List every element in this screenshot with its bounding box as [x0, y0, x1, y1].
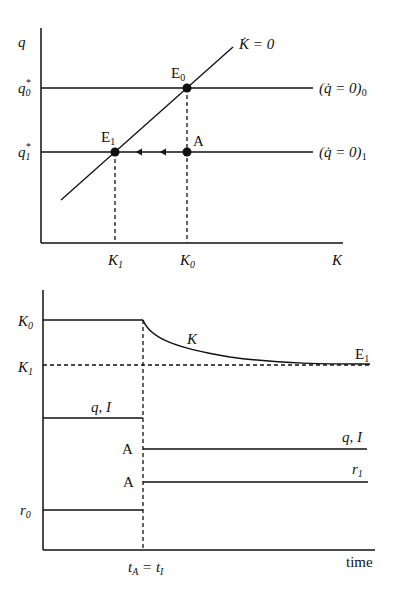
diagram-canvas: q q*0 q*1 E0 E1 A K̇ = 0 (q̇ = 0)0 (q̇ =…: [0, 0, 396, 595]
top-x-axis-label: K: [331, 252, 343, 268]
tick-k1-bottom: K1: [17, 359, 33, 377]
kdot-zero-line: [61, 47, 233, 200]
tick-q1-star: q*1: [18, 141, 31, 162]
label-qdot-zero-1: (q̇ = 0)1: [319, 144, 367, 162]
k-path-after: [143, 320, 370, 364]
tick-k0-bottom: K0: [17, 313, 33, 331]
label-e0: E0: [171, 65, 185, 83]
tick-r0: r0: [20, 502, 31, 520]
label-e1: E1: [101, 129, 115, 147]
arrow-left-icon: [160, 149, 166, 156]
label-qdot-zero-0: (q̇ = 0)0: [319, 80, 367, 98]
label-e1-bottom: E1: [355, 346, 369, 364]
label-qI-after: q, I: [342, 429, 363, 445]
label-a-lower: A: [123, 474, 134, 490]
point-e1: [111, 148, 120, 157]
point-e0: [183, 84, 192, 93]
label-a: A: [193, 133, 204, 149]
bottom-x-axis-label: time: [346, 554, 373, 570]
label-kdot-zero: K̇ = 0: [238, 36, 275, 52]
label-k-path: K: [186, 331, 198, 347]
label-qI-before: q, I: [91, 399, 112, 415]
tick-k1: K1: [107, 252, 123, 270]
top-y-axis-label: q: [18, 34, 26, 50]
label-event-time: tA = tI: [128, 559, 164, 577]
label-r1: r1: [352, 461, 363, 479]
tick-k0: K0: [179, 252, 195, 270]
label-a-upper: A: [122, 441, 133, 457]
point-a: [183, 148, 192, 157]
bottom-time-paths: [43, 290, 375, 550]
arrow-left-icon: [136, 149, 142, 156]
top-phase-diagram: [41, 28, 343, 243]
tick-q0-star: q*0: [18, 77, 31, 98]
